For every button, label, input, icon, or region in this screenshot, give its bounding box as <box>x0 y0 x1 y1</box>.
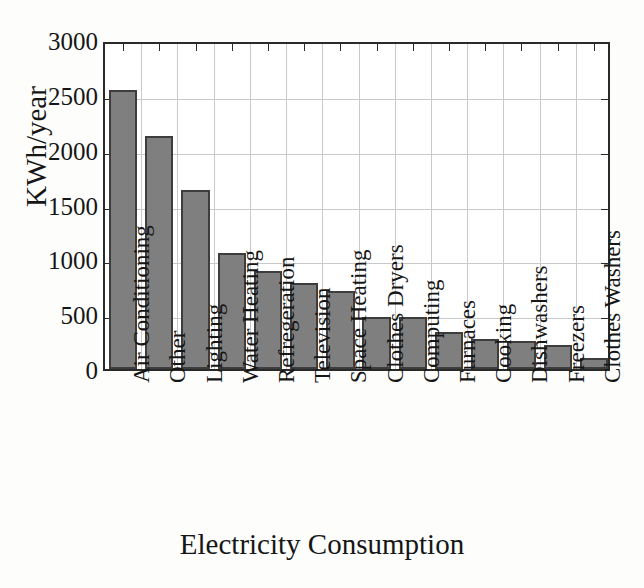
y-tick-label: 3000 <box>12 29 98 54</box>
y-tick-label: 0 <box>12 358 98 383</box>
x-tick-label: Television <box>311 288 334 383</box>
x-tick-label: Clothes Washers <box>601 230 624 383</box>
x-tick-label: Lighting <box>203 304 226 383</box>
y-tick-label: 1500 <box>12 194 98 219</box>
y-tick-label: 1000 <box>12 248 98 273</box>
x-axis-label: Electricity Consumption <box>0 528 644 561</box>
x-tick-label: Other <box>166 331 189 383</box>
y-axis-tick-labels: 050010001500200025003000 <box>0 0 98 588</box>
x-tick-label: Space Heating <box>347 250 370 383</box>
y-tick-label: 500 <box>12 303 98 328</box>
x-tick-label: Computing <box>420 279 443 383</box>
x-tick-label: Refregeration <box>275 257 298 383</box>
x-tick-label: Cooking <box>492 304 515 383</box>
y-tick-label: 2000 <box>12 139 98 164</box>
x-tick-label: Furnaces <box>456 300 479 383</box>
x-tick-label: Freezers <box>565 305 588 383</box>
x-axis-tick-labels: Air ConditioningOtherLightingWater Heati… <box>103 371 610 531</box>
x-tick-label: Dishwashers <box>528 265 551 383</box>
x-tick-label: Water Heating <box>239 250 262 383</box>
bar-chart-figure: KWh/year 050010001500200025003000 Air Co… <box>0 0 644 588</box>
y-tick-label: 2500 <box>12 84 98 109</box>
x-tick-label: Air Conditioning <box>130 225 153 383</box>
x-tick-label: Clothes Dryers <box>384 244 407 383</box>
